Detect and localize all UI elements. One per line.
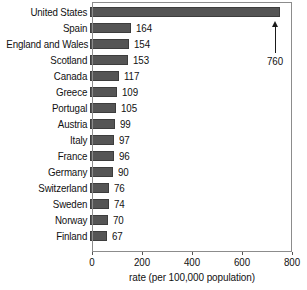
bar <box>90 71 119 81</box>
bar-cell: 70 <box>90 212 307 228</box>
x-axis-title: rate (per 100,000 population) <box>129 271 255 284</box>
x-axis-tick-label: 0 <box>89 256 94 268</box>
category-label: France <box>6 148 90 164</box>
x-axis-tick <box>92 252 93 255</box>
category-label: England and Wales <box>6 36 90 52</box>
chart-row: Austria99 <box>0 116 307 132</box>
category-label: Scotland <box>6 52 90 68</box>
bar <box>90 183 109 193</box>
bar-value-label: 97 <box>119 132 130 148</box>
bar-cell: 153 <box>90 52 307 68</box>
bar-value-label: 76 <box>114 180 125 196</box>
bar-value-label: 99 <box>120 116 131 132</box>
bar <box>90 119 115 129</box>
category-label: Greece <box>6 84 90 100</box>
bar-value-label: 70 <box>113 212 124 228</box>
category-label: Portugal <box>6 100 90 116</box>
category-label: Italy <box>6 132 90 148</box>
bar-cell: 76 <box>90 180 307 196</box>
bar <box>90 167 113 177</box>
category-label: Spain <box>6 20 90 36</box>
bar-cell: 96 <box>90 148 307 164</box>
category-label: Switzerland <box>6 180 90 196</box>
bar <box>90 135 114 145</box>
chart-row: United States <box>0 4 307 20</box>
chart-row: England and Wales154 <box>0 36 307 52</box>
bar-cell <box>90 4 307 20</box>
chart-row: Spain164 <box>0 20 307 36</box>
chart-row: Portugal105 <box>0 100 307 116</box>
bar-value-label: 109 <box>122 84 138 100</box>
x-axis-tick <box>242 252 243 255</box>
chart-row: Norway70 <box>0 212 307 228</box>
bar-cell: 109 <box>90 84 307 100</box>
bar <box>90 215 108 225</box>
chart-rows: United StatesSpain164England and Wales15… <box>0 4 307 244</box>
bar <box>90 55 128 65</box>
x-axis-tick-label: 600 <box>234 256 250 268</box>
category-label: Norway <box>6 212 90 228</box>
bar <box>90 7 280 17</box>
bar <box>90 87 117 97</box>
x-axis: rate (per 100,000 population) 0200400600… <box>92 252 292 290</box>
bar-cell: 97 <box>90 132 307 148</box>
bar-value-label: 105 <box>121 100 137 116</box>
x-axis-tick <box>292 252 293 255</box>
category-label: Finland <box>6 228 90 244</box>
bar-value-label: 117 <box>124 68 139 84</box>
chart-row: Germany90 <box>0 164 307 180</box>
bar-cell: 117 <box>90 68 307 84</box>
bar-value-label: 67 <box>112 228 123 244</box>
category-label: Austria <box>6 116 90 132</box>
bar <box>90 231 107 241</box>
bar-cell: 99 <box>90 116 307 132</box>
category-label: Canada <box>6 68 90 84</box>
bar-chart: United StatesSpain164England and Wales15… <box>0 0 307 290</box>
bar-cell: 164 <box>90 20 307 36</box>
chart-row: France96 <box>0 148 307 164</box>
chart-row: Finland67 <box>0 228 307 244</box>
chart-row: Scotland153 <box>0 52 307 68</box>
bar-cell: 67 <box>90 228 307 244</box>
x-axis-tick-label: 400 <box>184 256 200 268</box>
category-label: United States <box>6 4 90 20</box>
bar <box>90 103 116 113</box>
bar-cell: 90 <box>90 164 307 180</box>
bar-cell: 105 <box>90 100 307 116</box>
bar-value-label: 153 <box>133 52 149 68</box>
x-axis-tick <box>142 252 143 255</box>
bar-cell: 154 <box>90 36 307 52</box>
chart-row: Greece109 <box>0 84 307 100</box>
bar <box>90 39 129 49</box>
bar-value-label: 154 <box>134 36 150 52</box>
bar <box>90 151 114 161</box>
bar <box>90 23 131 33</box>
category-label: Germany <box>6 164 90 180</box>
bar-value-label: 96 <box>119 148 130 164</box>
bar <box>90 199 109 209</box>
x-axis-tick <box>192 252 193 255</box>
bar-cell: 74 <box>90 196 307 212</box>
bar-value-label: 90 <box>118 164 129 180</box>
category-label: Sweden <box>6 196 90 212</box>
bar-value-label: 74 <box>114 196 125 212</box>
chart-row: Canada117 <box>0 68 307 84</box>
x-axis-tick-label: 800 <box>284 256 300 268</box>
chart-row: Italy97 <box>0 132 307 148</box>
chart-row: Sweden74 <box>0 196 307 212</box>
x-axis-tick-label: 200 <box>134 256 150 268</box>
bar-value-label: 164 <box>136 20 152 36</box>
chart-row: Switzerland76 <box>0 180 307 196</box>
